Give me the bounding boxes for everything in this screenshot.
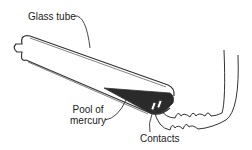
label-pool-line1: Pool of bbox=[70, 104, 106, 115]
label-glass-tube: Glass tube bbox=[28, 11, 76, 22]
label-pool-of-mercury: Pool of mercury bbox=[70, 104, 106, 126]
label-pool-line2: mercury bbox=[70, 115, 106, 126]
label-contacts: Contacts bbox=[140, 133, 179, 144]
wires bbox=[154, 50, 238, 130]
mercury-switch-diagram bbox=[0, 0, 252, 150]
